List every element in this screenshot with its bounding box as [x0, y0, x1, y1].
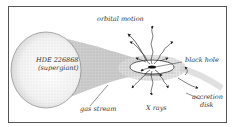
star-label-type: (supergiant) — [38, 65, 79, 72]
label-accretion: accretion — [192, 94, 223, 101]
black-hole — [148, 65, 156, 68]
label-disk: disk — [200, 102, 214, 109]
label-gas-stream: gas stream — [80, 106, 116, 113]
star-label-name: HDE 226868 — [36, 57, 79, 64]
label-x-rays: X rays — [146, 105, 167, 112]
label-orbital-motion: orbital motion — [97, 16, 144, 23]
label-black-hole: black hole — [185, 57, 219, 64]
